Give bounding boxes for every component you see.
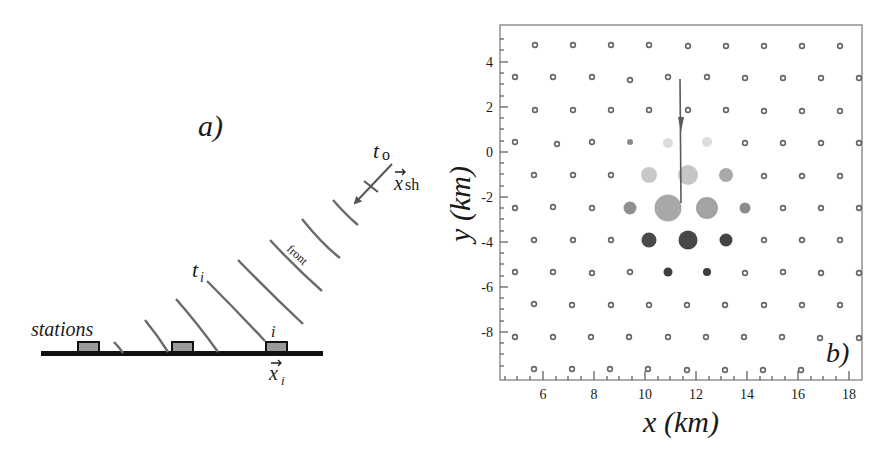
wavefront-8 [333,200,358,225]
svg-text:-6: -6 [481,280,493,295]
svg-text:16: 16 [791,387,805,402]
stations-label: stations [31,318,93,340]
svg-text:-8: -8 [481,325,493,340]
station-i [266,342,287,352]
x-axis-title: x (km) [642,405,719,439]
svg-text:2: 2 [486,100,493,115]
svg-text:18: 18 [842,387,856,402]
svg-text:i: i [281,373,285,388]
shower-direction-arrow [355,164,392,203]
svg-text:12: 12 [689,387,703,402]
svg-text:14: 14 [740,387,754,402]
y-tick-labels: 4 2 0 -2 -4 -6 -8 [481,55,493,340]
svg-text:o: o [382,146,390,163]
panel-b-chart: 4 2 0 -2 -4 -6 -8 6 8 10 12 14 16 18 x (… [443,25,862,439]
figure: a) stations i x i front [0,0,888,456]
svg-text:0: 0 [486,145,493,160]
svg-text:i: i [200,270,204,285]
svg-text:10: 10 [638,387,652,402]
svg-text:x: x [268,362,278,384]
station-markers [78,342,287,352]
wavefronts [114,200,358,353]
front-time-label: t i [192,257,204,285]
panel-a: a) stations i x i front [31,109,419,388]
station-position-label: x i [268,360,285,388]
svg-text:8: 8 [591,387,598,402]
svg-text:4: 4 [486,55,493,70]
wavefront-2 [145,320,168,352]
svg-text:x: x [393,172,403,194]
svg-text:-4: -4 [481,235,493,250]
wavefront-7 [302,219,340,258]
x-tick-labels: 6 8 10 12 14 16 18 [540,387,857,402]
station-index-label: i [271,323,275,340]
y-axis-title: y (km) [443,166,477,245]
origin-time-label: t o [373,138,390,163]
station-1 [78,342,99,352]
svg-text:sh: sh [405,176,419,193]
wavefront-5 [238,260,303,324]
shower-position-label: x sh [393,169,419,194]
panel-a-label: a) [198,109,223,143]
svg-text:t: t [373,138,380,163]
svg-text:6: 6 [540,387,547,402]
svg-text:-2: -2 [481,190,493,205]
shower-axis-line [680,79,681,203]
station-2 [172,342,193,352]
front-label: front [284,242,311,268]
svg-text:t: t [192,257,199,282]
wavefront-ti [207,281,265,341]
panel-b-label: b) [826,337,849,368]
